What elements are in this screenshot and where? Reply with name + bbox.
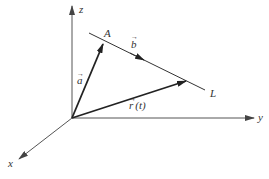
- point-A-label: A: [103, 27, 111, 39]
- b-direction-arrow: [130, 53, 144, 60]
- z-axis-label: z: [78, 3, 84, 15]
- vector-r-arrow-icon: →: [129, 95, 136, 103]
- vector-line-diagram: z y x A L a → b → r(t) →: [0, 0, 269, 179]
- line-L: [89, 33, 205, 90]
- vector-a-arrow-icon: →: [77, 70, 84, 78]
- y-axis-label: y: [257, 111, 263, 123]
- x-axis-label: x: [7, 157, 13, 169]
- line-L-label: L: [209, 87, 216, 99]
- x-axis: [19, 118, 72, 159]
- vector-b-arrow-icon: →: [131, 33, 138, 41]
